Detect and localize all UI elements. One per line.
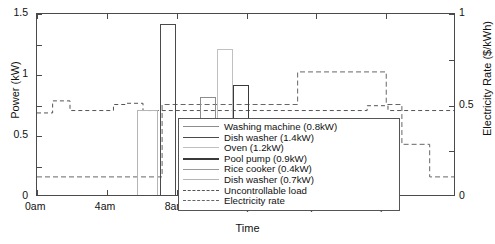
y-tick-label-right: 1 <box>459 6 489 18</box>
legend-item[interactable]: Dish washer (0.7kW) <box>183 175 394 186</box>
legend-item[interactable]: Dish washer (1.4kW) <box>183 133 394 144</box>
x-tick-label: 4am <box>95 200 115 212</box>
y-axis-right-title: Electricity Rate ($/kWh) <box>481 36 493 136</box>
legend-swatch-icon <box>183 144 219 152</box>
legend: Washing machine (0.8kW)Dish washer (1.4k… <box>178 118 400 211</box>
legend-swatch-icon <box>183 187 219 195</box>
y-tick-label-right: 0 <box>459 189 489 201</box>
legend-swatch-icon <box>183 166 219 174</box>
legend-item[interactable]: Electricity rate <box>183 196 394 207</box>
legend-swatch-icon <box>183 155 219 163</box>
legend-swatch-icon <box>183 134 219 142</box>
legend-swatch-icon <box>183 197 219 205</box>
bar <box>160 24 176 195</box>
y-tick-label-left: 1.5 <box>2 6 28 18</box>
legend-swatch-icon <box>183 123 219 131</box>
bar <box>137 110 158 195</box>
y-tick-label-left: 1 <box>2 67 28 79</box>
x-axis-title: Time <box>0 222 495 234</box>
x-tick-label: 0am <box>25 200 45 212</box>
legend-item[interactable]: Washing machine (0.8kW) <box>183 122 394 133</box>
legend-label: Dish washer (0.7kW) <box>224 175 314 186</box>
legend-item[interactable]: Uncontrollable load <box>183 186 394 197</box>
y-tick-label-left: 0.5 <box>2 128 28 140</box>
legend-label: Washing machine (0.8kW) <box>224 122 337 133</box>
legend-swatch-icon <box>183 176 219 184</box>
chart-figure: Power (kW) Electricity Rate ($/kWh) Time… <box>0 0 495 244</box>
y-axis-left-title: Power (kW) <box>9 45 21 135</box>
y-tick-label-right: 0.5 <box>459 98 489 110</box>
legend-label: Electricity rate <box>224 196 285 207</box>
